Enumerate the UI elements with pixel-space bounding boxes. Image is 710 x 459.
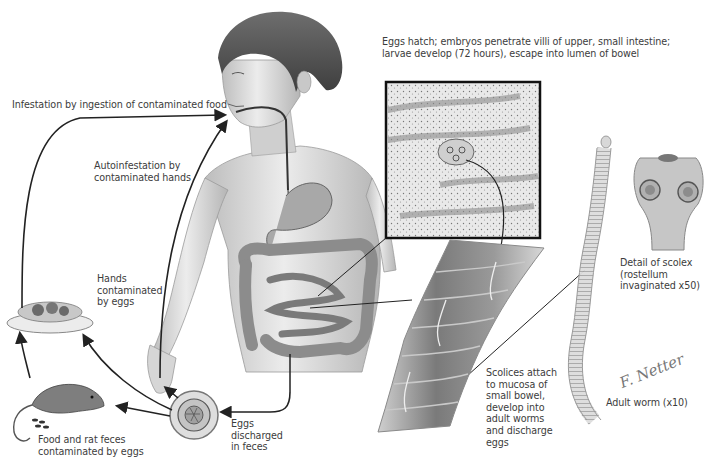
label-scolex-detail: Detail of scolex (rostellum invaginated … <box>620 257 700 292</box>
rat <box>14 384 104 441</box>
label-eggs-hatch: Eggs hatch; embryos penetrate villi of u… <box>382 36 670 59</box>
label-scolices-attach: Scolices attach to mucosa of small bowel… <box>486 367 557 448</box>
label-ingestion: Infestation by ingestion of contaminated… <box>12 99 227 111</box>
scolex-detail <box>634 154 703 250</box>
life-cycle-diagram: Eggs hatch; embryos penetrate villi of u… <box>0 0 710 459</box>
label-autoinfestation: Autoinfestation by contaminated hands <box>94 160 191 183</box>
label-eggs-discharged: Eggs discharged in feces <box>231 418 283 453</box>
adult-tapeworm <box>568 136 611 420</box>
food-plate <box>7 302 93 333</box>
label-adult-worm: Adult worm (x10) <box>606 397 688 409</box>
intestinal-villi-inset <box>386 82 540 252</box>
label-food-rat: Food and rat feces contaminated by eggs <box>38 434 144 457</box>
label-hands-contaminated: Hands contaminated by eggs <box>97 273 162 308</box>
illustration-canvas <box>0 0 710 459</box>
